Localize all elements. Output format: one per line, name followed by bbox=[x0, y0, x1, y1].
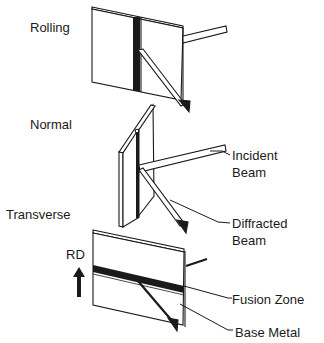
normal-weld-marker bbox=[135, 129, 139, 133]
label-transverse: Transverse bbox=[6, 207, 71, 222]
transverse-specimen bbox=[93, 230, 207, 331]
rd-arrow-icon bbox=[73, 267, 85, 297]
label-fusion-zone: Fusion Zone bbox=[232, 292, 304, 307]
base-metal-leader bbox=[180, 304, 233, 330]
rolling-specimen bbox=[92, 7, 227, 112]
rolling-weld-strip bbox=[133, 17, 140, 91]
normal-specimen bbox=[119, 105, 226, 233]
label-incident-line1: Incident bbox=[232, 148, 278, 163]
transverse-incident-beam bbox=[186, 259, 207, 266]
fusion-zone-leader bbox=[184, 286, 232, 298]
normal-weld-strip bbox=[136, 130, 140, 218]
weld-diffraction-diagram: Rolling Normal Incident Beam Diffracted … bbox=[0, 0, 324, 343]
label-diffracted-line2: Beam bbox=[232, 233, 266, 248]
label-base-metal: Base Metal bbox=[235, 325, 300, 340]
label-diffracted-line1: Diffracted bbox=[232, 216, 287, 231]
label-incident-line2: Beam bbox=[232, 165, 266, 180]
label-normal: Normal bbox=[30, 117, 72, 132]
label-rolling: Rolling bbox=[30, 20, 70, 35]
transverse-diffracted-arrowhead bbox=[168, 318, 178, 331]
normal-plate-front-edge bbox=[119, 152, 123, 227]
label-rd: RD bbox=[66, 247, 85, 262]
rolling-incident-beam bbox=[183, 26, 227, 43]
normal-diffracted-arrowhead bbox=[177, 220, 188, 233]
